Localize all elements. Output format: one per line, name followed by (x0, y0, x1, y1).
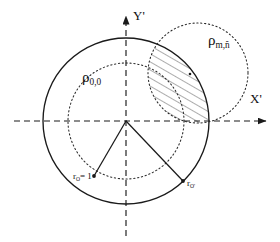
rho-m-n-glyph: ρ (208, 32, 216, 48)
x-axis-label: X' (250, 92, 262, 105)
rho-0-0-subscript: 0,0 (90, 77, 102, 87)
radius-line-r-o-unit (94, 121, 126, 176)
rho-0-0-glyph: ρ (82, 69, 90, 85)
rho-m-n-subscript: m,ñ (216, 40, 230, 50)
r-o-unit-value: = 1 (80, 171, 92, 181)
diagram-svg (0, 0, 280, 242)
label-rho-0-0: ρ0,0 (82, 70, 101, 87)
r-o-prime-subscript: O' (190, 183, 195, 189)
radius-line-r-o-prime (126, 121, 183, 181)
y-axis-label: Y' (133, 9, 145, 22)
radius-endpoint-dot-unit (92, 174, 96, 178)
figure-canvas: ρ0,0 ρm,ñ X' Y' rO= 1 rO' (0, 0, 280, 242)
label-r-o-unit: rO= 1 (73, 172, 92, 182)
label-rho-m-n: ρm,ñ (208, 33, 230, 50)
label-r-o-prime: rO' (187, 179, 195, 189)
radius-endpoint-dot-o-prime (181, 179, 185, 183)
center-point-o-prime (189, 73, 192, 76)
